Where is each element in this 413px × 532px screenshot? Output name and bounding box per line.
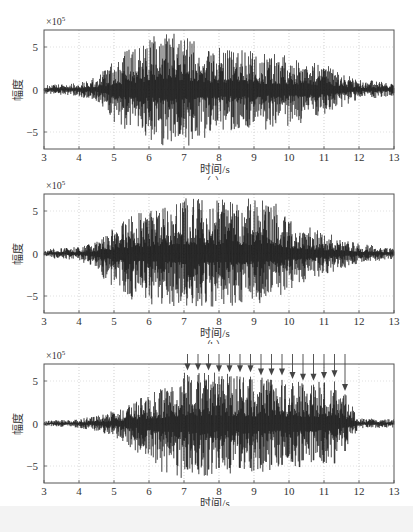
y-exponent-label: ×105	[46, 179, 66, 191]
y-tick-label: −5	[26, 460, 38, 472]
arrow-down-icon	[237, 365, 243, 372]
x-tick-label: 5	[111, 151, 117, 163]
y-tick-label: 5	[33, 375, 39, 387]
x-tick-label: 9	[251, 151, 257, 163]
y-tick-label: 0	[33, 248, 39, 260]
x-tick-label: 10	[284, 151, 296, 163]
arrow-down-icon	[290, 372, 296, 379]
arrow-down-icon	[206, 364, 212, 371]
y-tick-label: −5	[26, 126, 38, 138]
x-tick-label: 6	[146, 151, 152, 163]
arrow-down-icon	[227, 365, 233, 372]
x-tick-label: 8	[216, 485, 222, 497]
chart-panel-a: ×105345678910111213−505幅度时间/s（a）	[0, 0, 413, 180]
x-tick-label: 12	[354, 151, 365, 163]
x-tick-label: 6	[146, 485, 152, 497]
x-tick-label: 3	[41, 151, 47, 163]
x-tick-label: 7	[181, 151, 187, 163]
arrow-down-icon	[248, 365, 254, 372]
y-tick-label: −5	[26, 290, 38, 302]
x-tick-label: 6	[146, 315, 152, 327]
y-exponent-label: ×105	[46, 15, 66, 27]
x-tick-label: 4	[76, 315, 82, 327]
x-tick-label: 7	[181, 485, 187, 497]
x-tick-label: 8	[216, 315, 222, 327]
arrow-down-icon	[342, 384, 348, 391]
arrow-down-icon	[300, 374, 306, 381]
y-exponent-label: ×105	[46, 349, 66, 361]
panel-c: ×105345678910111213−505幅度时间/s（c）	[0, 334, 413, 514]
signal-waveform	[44, 373, 394, 478]
arrow-down-icon	[332, 370, 338, 377]
chart-panel-c: ×105345678910111213−505幅度时间/s（c）	[0, 334, 413, 514]
x-tick-label: 7	[181, 315, 187, 327]
arrow-down-icon	[195, 364, 201, 371]
x-tick-label: 11	[319, 315, 330, 327]
footer-band	[0, 506, 413, 532]
arrow-down-icon	[185, 364, 191, 371]
y-axis-label: 幅度	[11, 243, 24, 265]
x-tick-label: 4	[76, 151, 82, 163]
arrow-down-icon	[321, 372, 327, 379]
y-axis-label: 幅度	[11, 413, 24, 435]
x-tick-label: 9	[251, 485, 257, 497]
x-tick-label: 12	[354, 485, 365, 497]
x-tick-label: 12	[354, 315, 365, 327]
x-tick-label: 11	[319, 485, 330, 497]
panel-b: ×105345678910111213−505幅度时间/s（b）	[0, 164, 413, 344]
x-tick-label: 4	[76, 485, 82, 497]
y-tick-label: 5	[33, 205, 39, 217]
y-axis-label: 幅度	[11, 79, 24, 101]
x-tick-label: 13	[389, 315, 401, 327]
x-tick-label: 3	[41, 315, 47, 327]
x-tick-label: 3	[41, 485, 47, 497]
x-tick-label: 5	[111, 315, 117, 327]
arrow-down-icon	[216, 365, 222, 372]
x-tick-label: 9	[251, 315, 257, 327]
y-tick-label: 5	[33, 41, 39, 53]
x-tick-label: 10	[284, 485, 296, 497]
chart-panel-b: ×105345678910111213−505幅度时间/s（b）	[0, 164, 413, 344]
arrow-down-icon	[279, 369, 285, 376]
x-tick-label: 8	[216, 151, 222, 163]
arrow-down-icon	[269, 369, 275, 376]
panel-a: ×105345678910111213−505幅度时间/s（a）	[0, 0, 413, 180]
signal-waveform	[44, 34, 394, 146]
x-tick-label: 11	[319, 151, 330, 163]
x-tick-label: 5	[111, 485, 117, 497]
x-tick-label: 13	[389, 151, 401, 163]
y-tick-label: 0	[33, 418, 39, 430]
x-tick-label: 13	[389, 485, 401, 497]
x-tick-label: 10	[284, 315, 296, 327]
y-tick-label: 0	[33, 84, 39, 96]
arrow-down-icon	[258, 369, 264, 376]
arrow-down-icon	[311, 374, 317, 381]
